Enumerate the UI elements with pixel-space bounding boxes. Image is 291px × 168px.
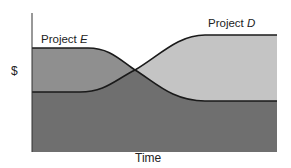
project-e-prefix: Project: [41, 33, 80, 45]
project-e-letter: E: [80, 33, 88, 45]
y-axis-label: $: [11, 64, 18, 78]
x-axis-label: Time: [135, 151, 161, 165]
project-d-label: Project D: [208, 17, 255, 29]
project-e-label: Project E: [41, 33, 88, 45]
project-d-letter: D: [247, 17, 255, 29]
project-d-prefix: Project: [208, 17, 247, 29]
